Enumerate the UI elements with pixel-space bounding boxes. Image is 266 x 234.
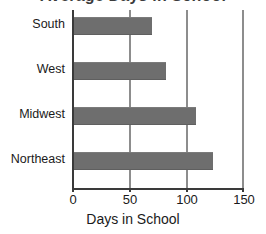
category-label-northeast: Northeast (11, 153, 65, 166)
category-label-south: South (32, 18, 65, 31)
bar-northeast (74, 152, 213, 170)
x-axis-line (72, 188, 244, 190)
xtick-label-50: 50 (123, 192, 137, 207)
x-axis-title: Days in School (0, 211, 266, 227)
category-label-west: West (37, 63, 65, 76)
category-axis-labels: South West Midwest Northeast (0, 0, 69, 190)
category-label-midwest: Midwest (19, 108, 65, 121)
plot-area (72, 10, 243, 188)
gridline-150 (242, 10, 244, 188)
xtick-label-0: 0 (69, 192, 76, 207)
bar-midwest (74, 107, 196, 125)
bar-south (74, 17, 152, 35)
xtick-label-150: 150 (233, 192, 255, 207)
xtick-label-100: 100 (176, 192, 198, 207)
x-axis-tick-labels: 0 50 100 150 (0, 192, 266, 208)
bar-chart-figure: Average Days in School South West Midwes… (0, 0, 266, 234)
bar-west (74, 62, 166, 80)
